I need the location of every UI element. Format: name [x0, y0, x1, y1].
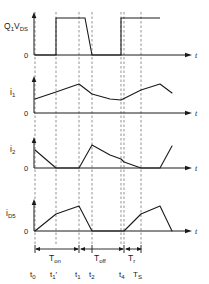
- time-point-labels: t0 t1′ t1 t2 t4 TS: [30, 270, 142, 280]
- t-off-label: Toff: [94, 253, 106, 264]
- i2-axis-label: t: [195, 164, 198, 173]
- id5-label: iD5: [6, 208, 16, 219]
- i2-waveform: [35, 145, 172, 168]
- q1vds-label: Q1VDS: [4, 21, 28, 32]
- dashed-guides: [35, 12, 141, 245]
- t-off-arrow-right: [119, 247, 124, 251]
- id5-y-arrow: [32, 199, 37, 205]
- t-on-label: Ton: [49, 253, 61, 264]
- panel-i1: i1 0 t: [10, 76, 198, 118]
- t-off-arrow-left: [80, 247, 85, 251]
- i1-zero-label: 0: [24, 109, 28, 118]
- t-on-arrow-right: [74, 247, 79, 251]
- i2-zero-label: 0: [24, 164, 28, 173]
- t-r-label: Tr: [128, 253, 135, 264]
- time-label-t2: t2: [89, 270, 95, 280]
- id5-waveform: [35, 206, 172, 231]
- q1vds-zero-label: 0: [24, 51, 28, 60]
- t-r-arrow-left: [125, 247, 130, 251]
- i1-y-arrow: [32, 76, 37, 82]
- i2-x-arrow: [185, 166, 192, 171]
- time-label-t0: t0: [30, 270, 36, 280]
- id5-axis-label: t: [195, 227, 198, 236]
- time-label-t4: t4: [119, 270, 125, 280]
- time-label-ts: TS: [133, 270, 142, 280]
- interval-bar: [35, 245, 142, 253]
- waveform-svg: Q1VDS 0 t i1 0 t i2 0 t: [0, 0, 209, 284]
- q1vds-y-arrow: [32, 12, 37, 18]
- i2-y-arrow: [32, 137, 37, 143]
- q1vds-x-arrow: [185, 53, 192, 58]
- panel-q1vds: Q1VDS 0 t: [4, 12, 198, 60]
- t-on-arrow-left: [35, 247, 40, 251]
- panel-i2: i2 0 t: [10, 137, 198, 173]
- id5-zero-label: 0: [24, 227, 28, 236]
- q1vds-axis-label: t: [195, 51, 198, 60]
- i1-x-arrow: [185, 111, 192, 116]
- time-label-t1: t1: [75, 270, 81, 280]
- i1-axis-label: t: [195, 109, 198, 118]
- i1-label: i1: [10, 87, 16, 98]
- i1-waveform: [35, 84, 172, 100]
- waveform-figure: Q1VDS 0 t i1 0 t i2 0 t: [0, 0, 209, 284]
- i2-label: i2: [10, 144, 16, 155]
- time-label-t1-prime: t1′: [50, 270, 58, 280]
- interval-labels: Ton Toff Tr: [49, 253, 135, 264]
- id5-x-arrow: [185, 229, 192, 234]
